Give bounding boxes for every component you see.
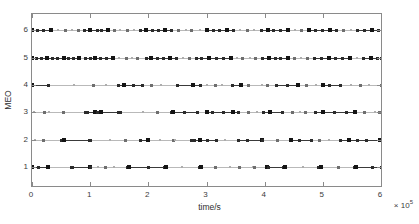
data-point-marker: [272, 29, 275, 32]
x-axis-tick: [265, 182, 266, 186]
data-point-marker: [238, 166, 241, 169]
data-point-marker: [307, 28, 311, 32]
data-point-marker: [341, 57, 344, 60]
data-point-marker: [67, 57, 70, 60]
data-point-marker: [333, 111, 336, 114]
y-tick-label: 2: [20, 134, 28, 143]
y-axis-tick: [32, 167, 36, 168]
data-point-marker: [174, 139, 176, 141]
data-point-marker: [199, 84, 202, 87]
data-point-marker: [160, 84, 162, 86]
visibility-interval-segment: [86, 112, 121, 113]
data-point-marker: [314, 29, 317, 32]
visibility-interval-segment: [291, 140, 311, 141]
data-point-marker: [237, 139, 240, 142]
data-point-marker: [124, 139, 127, 142]
data-point-marker: [159, 139, 161, 141]
data-point-marker: [348, 56, 352, 60]
y-tick-label: 6: [20, 25, 28, 34]
data-point-marker: [298, 139, 301, 142]
data-point-marker: [99, 110, 103, 114]
x-axis-exponent-label: × 105: [394, 199, 413, 210]
data-point-marker: [291, 111, 294, 114]
data-point-marker: [294, 29, 296, 31]
data-point-marker: [105, 84, 107, 86]
data-point-marker: [99, 57, 102, 60]
data-point-marker: [195, 57, 198, 60]
data-point-marker: [126, 29, 129, 32]
data-point-marker: [206, 84, 208, 86]
data-point-marker: [274, 57, 277, 60]
data-point-marker: [149, 56, 153, 60]
data-point-marker: [328, 28, 332, 32]
x-axis-tick: [381, 14, 382, 18]
data-point-marker: [157, 29, 160, 32]
data-point-marker: [304, 111, 307, 114]
x-tick-label: 1: [87, 190, 91, 199]
data-point-marker: [365, 139, 368, 142]
data-point-marker: [224, 139, 226, 141]
data-point-marker: [293, 57, 296, 60]
data-point-marker: [327, 56, 331, 60]
x-axis-tick: [265, 14, 266, 18]
data-point-marker: [321, 29, 324, 32]
data-point-marker: [300, 57, 302, 59]
data-point-marker: [106, 28, 110, 32]
data-point-marker: [221, 84, 223, 86]
data-point-marker: [356, 29, 359, 32]
y-tick-label: 5: [20, 52, 28, 61]
data-point-marker: [104, 166, 107, 169]
y-axis-tick: [32, 30, 36, 31]
data-point-marker: [313, 57, 316, 60]
data-point-marker: [362, 57, 365, 60]
data-point-marker: [73, 84, 75, 86]
data-point-marker: [83, 29, 86, 32]
data-point-marker: [200, 57, 203, 60]
data-point-marker: [237, 111, 240, 114]
data-point-marker: [163, 28, 167, 32]
data-point-marker: [354, 165, 358, 169]
data-point-marker: [117, 84, 120, 87]
data-point-marker: [199, 165, 203, 169]
data-point-marker: [185, 29, 187, 31]
data-point-marker: [162, 57, 165, 60]
data-point-marker: [328, 84, 331, 87]
data-point-marker: [93, 56, 97, 60]
data-point-marker: [111, 56, 115, 60]
data-point-marker: [334, 57, 337, 60]
data-point-marker: [267, 166, 270, 169]
data-point-marker: [218, 29, 221, 32]
data-point-marker: [241, 57, 244, 60]
data-point-marker: [254, 57, 257, 60]
data-point-marker: [92, 84, 95, 87]
x-tick-label: 4: [261, 190, 265, 199]
data-point-marker: [51, 57, 54, 60]
data-point-marker: [105, 57, 108, 60]
data-point-marker: [136, 57, 139, 60]
data-point-marker: [320, 57, 323, 60]
x-axis-tick: [323, 14, 324, 18]
data-point-marker: [369, 56, 373, 60]
data-point-marker: [239, 29, 241, 31]
data-point-marker: [359, 84, 362, 87]
x-tick-label: 2: [145, 190, 149, 199]
data-point-marker: [261, 139, 264, 142]
data-point-marker: [260, 29, 263, 32]
data-point-marker: [207, 56, 211, 60]
data-point-marker: [286, 28, 290, 32]
data-point-marker: [64, 29, 67, 32]
figure-canvas: 0123456 123456 time/s MEO × 105: [0, 0, 419, 224]
data-point-marker: [193, 139, 196, 142]
data-point-marker: [46, 165, 50, 169]
data-point-marker: [345, 111, 348, 114]
data-point-marker: [113, 29, 116, 32]
data-point-marker: [350, 29, 352, 31]
data-point-marker: [283, 165, 287, 169]
data-point-marker: [42, 139, 45, 142]
data-point-marker: [211, 111, 214, 114]
data-point-marker: [57, 29, 59, 31]
y-axis-tick: [377, 85, 381, 86]
data-point-marker: [267, 56, 271, 60]
data-point-marker: [122, 83, 126, 87]
data-point-marker: [347, 138, 351, 142]
